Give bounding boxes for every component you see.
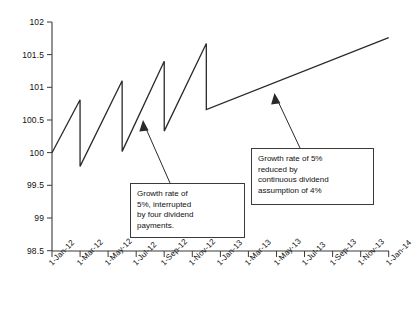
y-tick-label: 101	[8, 82, 44, 92]
y-tick-label: 101.5	[8, 50, 44, 60]
annotation-line: Growth rate of	[137, 189, 238, 200]
continuous-dividend-leader	[271, 93, 300, 148]
annotation-line: reduced by	[258, 165, 367, 176]
discrete-dividend-annotation: Growth rate of 5%, interrupted by four d…	[130, 183, 245, 238]
y-tick-label: 100	[8, 148, 44, 158]
annotation-line: continuous dividend	[258, 175, 367, 186]
annotation-line: assumption of 4%	[258, 186, 367, 197]
annotation-line: 5%, interrupted	[137, 200, 238, 211]
y-tick-label: 98.5	[8, 246, 44, 256]
annotation-line: Growth rate of 5%	[258, 154, 367, 165]
y-tick-label: 100.5	[8, 115, 44, 125]
annotation-line: by four dividend	[137, 210, 238, 221]
continuous-dividend-annotation: Growth rate of 5% reduced by continuous …	[251, 148, 374, 205]
y-tick-label: 99.5	[8, 180, 44, 190]
annotation-line: payments.	[137, 221, 238, 232]
y-tick-marks	[47, 22, 52, 251]
y-tick-label: 99	[8, 213, 44, 223]
y-tick-label: 102	[8, 17, 44, 27]
